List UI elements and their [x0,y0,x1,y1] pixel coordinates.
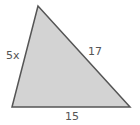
triangle-shape [12,6,130,107]
side-label-left: 5x [6,49,20,62]
side-label-hypotenuse: 17 [88,45,102,58]
triangle-diagram: 5x 17 15 [0,0,140,125]
side-label-base: 15 [65,110,79,123]
